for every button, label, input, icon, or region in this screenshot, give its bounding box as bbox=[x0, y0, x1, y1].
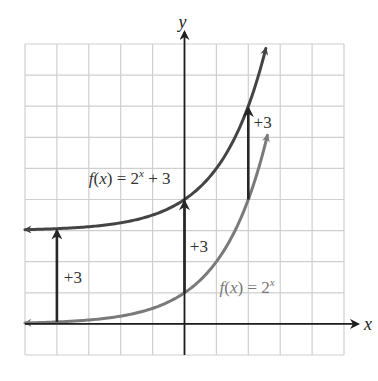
label-exponent: x bbox=[269, 276, 275, 288]
exponential-translation-chart: +3+3+3 x y f(x) = 2x + 3 f(x) = 2x bbox=[0, 0, 378, 381]
label-rest: ) = 2 bbox=[238, 278, 270, 297]
shift-label: +3 bbox=[254, 113, 272, 132]
shift-label: +3 bbox=[64, 268, 82, 287]
label-rest: ) = 2 bbox=[107, 169, 139, 188]
series-label-base: f(x) = 2x bbox=[220, 276, 275, 297]
y-axis-label: y bbox=[177, 12, 187, 32]
shift-label: +3 bbox=[190, 237, 208, 256]
x-axis-label: x bbox=[363, 314, 372, 334]
series-label-shifted: f(x) = 2x + 3 bbox=[89, 167, 171, 188]
label-tail: + 3 bbox=[144, 169, 171, 188]
